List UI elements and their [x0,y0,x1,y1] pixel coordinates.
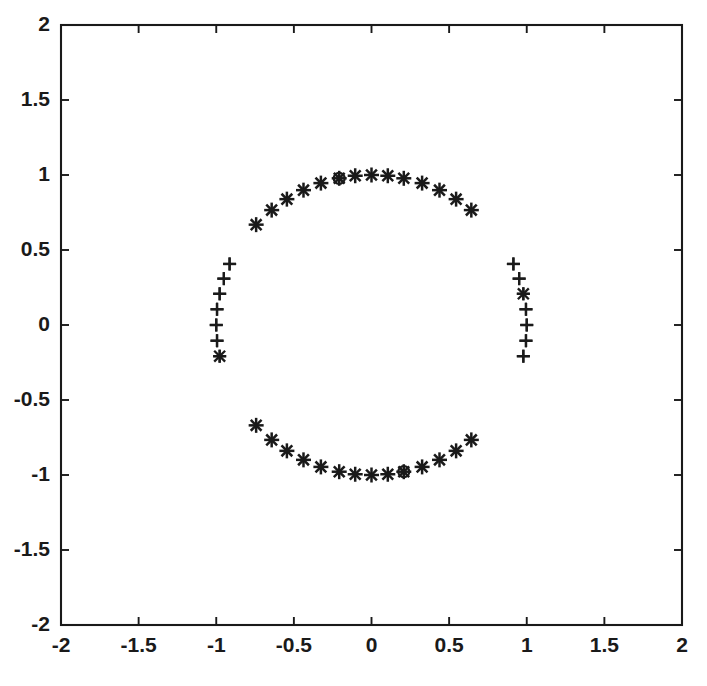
x-tick-label: 2 [676,633,688,656]
figure-canvas: -2-1.5-1-0.500.511.52 -2-1.5-1-0.500.511… [0,0,707,686]
x-tick-label: 1.5 [590,633,620,656]
y-tick-label: 0.5 [21,237,51,260]
y-tick-label: -0.5 [14,387,51,410]
scatter-plot: -2-1.5-1-0.500.511.52 -2-1.5-1-0.500.511… [0,0,707,686]
y-tick-label: -1 [31,462,50,485]
x-tick-label: 1 [521,633,533,656]
y-tick-label: 0 [38,312,50,335]
y-tick-label: 2 [38,12,50,35]
plot-background [0,0,707,686]
y-tick-label: -1.5 [14,537,51,560]
x-tick-label: 0 [366,633,378,656]
y-tick-label: 1.5 [21,87,51,110]
x-tick-label: 0.5 [435,633,465,656]
x-tick-label: -1.5 [121,633,158,656]
x-tick-label: -2 [52,633,71,656]
x-tick-label: -1 [207,633,226,656]
x-tick-label: -0.5 [276,633,313,656]
y-tick-label: -2 [31,612,50,635]
y-tick-label: 1 [38,162,50,185]
x-axis-tick-labels: -2-1.5-1-0.500.511.52 [52,633,688,656]
